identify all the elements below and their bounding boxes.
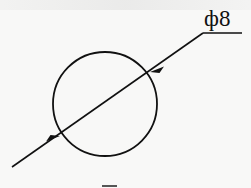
circle-shape [53, 52, 157, 156]
dimension-leader-line [12, 33, 203, 167]
arrowhead-lower-icon [46, 135, 60, 142]
arrowhead-upper-icon [150, 67, 164, 74]
dimension-label: ф8 [204, 6, 230, 32]
drawing-canvas: ф8 [0, 0, 251, 188]
